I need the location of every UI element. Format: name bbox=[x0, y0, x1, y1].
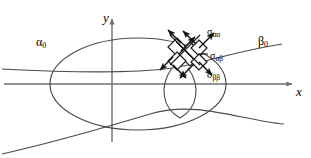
alpha-zero-subscript: 0 bbox=[42, 41, 46, 50]
beta-zero-lower-branch bbox=[2, 109, 284, 154]
y-axis-label: y bbox=[103, 11, 109, 24]
diagram-canvas bbox=[0, 0, 311, 158]
sigma-alpha-beta-subscript: αβ bbox=[215, 54, 223, 63]
stress-tensor-diagram: α0 β0 x y σαα σαβ σββ bbox=[0, 0, 311, 158]
sigma-alpha-alpha-subscript: αα bbox=[212, 30, 220, 39]
alpha-zero-label: α0 bbox=[36, 36, 46, 50]
sigma-alpha-alpha-label: σαα bbox=[207, 27, 220, 38]
stress-arrow-cluster bbox=[160, 30, 214, 78]
sigma-alpha-beta-label: σαβ bbox=[210, 51, 223, 62]
sigma-beta-beta-subscript: ββ bbox=[212, 73, 220, 82]
x-axis-label: x bbox=[296, 85, 302, 98]
beta-zero-label: β0 bbox=[258, 35, 268, 49]
beta-zero-subscript: 0 bbox=[264, 40, 268, 49]
sigma-beta-beta-label: σββ bbox=[207, 70, 220, 81]
